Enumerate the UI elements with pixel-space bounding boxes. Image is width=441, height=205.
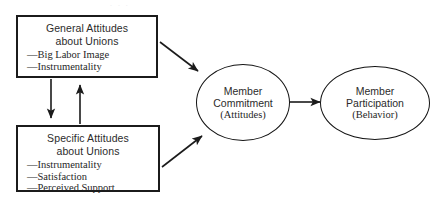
node-member-commitment[interactable]: Member Commitment (Attitudes) xyxy=(196,64,290,141)
bullet-dash: — xyxy=(27,159,37,170)
list-item: —Perceived Support xyxy=(27,182,158,194)
specific-attitudes-title: Specific Attitudes about Unions xyxy=(18,132,158,157)
bullet-label: Instrumentality xyxy=(38,61,102,72)
member-participation-subtitle: (Behavior) xyxy=(352,109,397,121)
specific-attitudes-title-line1: Specific Attitudes xyxy=(47,132,129,144)
bullet-label: Big Labor Image xyxy=(38,49,110,60)
member-commitment-title-line1: Member xyxy=(213,85,273,97)
member-participation-title: Member Participation xyxy=(346,85,404,109)
general-attitudes-title-line2: about Unions xyxy=(18,35,156,48)
member-participation-title-line1: Member xyxy=(346,85,404,97)
member-commitment-title: Member Commitment xyxy=(213,85,273,109)
bullet-dash: — xyxy=(27,61,37,72)
edge-general-to-commitment xyxy=(160,42,198,71)
member-commitment-title-line2: Commitment xyxy=(213,97,273,109)
list-item: —Satisfaction xyxy=(27,171,158,183)
specific-attitudes-title-line2: about Unions xyxy=(18,145,158,158)
bullet-dash: — xyxy=(27,182,37,193)
member-participation-title-line2: Participation xyxy=(346,97,404,109)
general-attitudes-title: General Attitudes about Unions xyxy=(18,22,156,47)
bullet-dash: — xyxy=(27,49,37,60)
member-commitment-subtitle: (Attitudes) xyxy=(220,109,266,121)
bullet-label: Satisfaction xyxy=(38,171,88,182)
list-item: —Big Labor Image xyxy=(27,49,156,61)
node-specific-attitudes-about-unions[interactable]: Specific Attitudes about Unions —Instrum… xyxy=(16,125,160,192)
node-general-attitudes-about-unions[interactable]: General Attitudes about Unions —Big Labo… xyxy=(16,15,158,78)
list-item: —Instrumentality xyxy=(27,159,158,171)
bullet-label: Instrumentality xyxy=(38,159,102,170)
general-attitudes-bullet-list: —Big Labor Image —Instrumentality xyxy=(18,49,156,72)
edge-specific-to-commitment xyxy=(162,136,202,167)
general-attitudes-title-line1: General Attitudes xyxy=(46,22,128,34)
list-item: —Instrumentality xyxy=(27,61,156,73)
bullet-label: Perceived Support xyxy=(38,182,115,193)
diagram-canvas: . . . General Attitudes xyxy=(0,0,441,205)
specific-attitudes-bullet-list: —Instrumentality —Satisfaction —Perceive… xyxy=(18,159,158,194)
node-member-participation[interactable]: Member Participation (Behavior) xyxy=(320,66,430,140)
bullet-dash: — xyxy=(27,171,37,182)
